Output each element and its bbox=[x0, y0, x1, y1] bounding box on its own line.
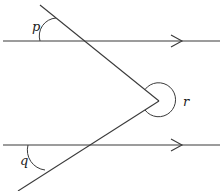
lower-transversal bbox=[18, 101, 159, 191]
angle-r-arc bbox=[145, 83, 176, 117]
angle-r-label: r bbox=[183, 94, 190, 109]
angle-diagram: p q r bbox=[0, 0, 220, 191]
angle-q-arc bbox=[27, 145, 45, 170]
angle-p-label: p bbox=[32, 19, 41, 34]
upper-transversal bbox=[40, 5, 159, 101]
angle-p-arc bbox=[39, 18, 56, 41]
angle-q-label: q bbox=[20, 153, 28, 168]
